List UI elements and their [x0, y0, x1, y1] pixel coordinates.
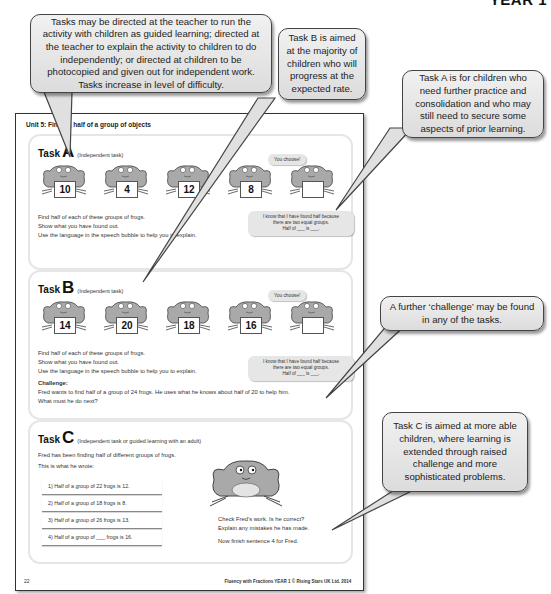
task-c-panel: TaskC(Independent task or guided learnin…: [28, 420, 353, 564]
instruction-line: Find half of each of these groups of fro…: [38, 214, 145, 220]
instruction-line: Use the language in the speech bubble to…: [38, 232, 197, 238]
challenge-line: Fred wants to find half of a group of 24…: [38, 389, 289, 395]
frog-card-icon: 12: [164, 163, 212, 201]
challenge-label: Challenge:: [38, 380, 68, 386]
task-b-panel: TaskB(Independent task) You choose! 14 2…: [28, 270, 353, 420]
frog-card-icon: 20: [102, 299, 150, 337]
frog-card-icon: 10: [40, 163, 88, 201]
fred-sentence: 1) Half of a group of 22 frogs is 12.: [42, 479, 162, 495]
challenge-line: What must he do next?: [38, 398, 98, 404]
page-number: 22: [24, 578, 30, 584]
callout-task-c: Task C is aimed at more able children, w…: [382, 412, 528, 492]
callout-task-b: Task B is aimed at the majority of child…: [278, 28, 366, 100]
instruction-line: Find half of each of these groups of fro…: [38, 350, 145, 356]
callout-tasks-directed: Tasks may be directed at the teacher to …: [30, 14, 272, 93]
fred-sentence: 4) Half of a group of ___ frogs is 16.: [42, 530, 162, 546]
task-b-heading: TaskB(Independent task): [38, 278, 123, 298]
fred-sentence: 3) Half of a group of 26 frogs is 13.: [42, 513, 162, 529]
frog-row: 14 20 18 16: [40, 299, 336, 337]
fred-sentences-list: 1) Half of a group of 22 frogs is 12. 2)…: [42, 479, 162, 547]
unit-title: Unit 5: Finding half of a group of objec…: [26, 121, 151, 128]
instruction-line: Use the language in the speech bubble to…: [38, 368, 197, 374]
callout-task-a: Task A is for children who need further …: [402, 70, 544, 138]
task-a-subtitle: (Independent task): [77, 152, 123, 158]
fred-frog-icon: [208, 458, 284, 510]
speech-bubble: I know that I have found half because th…: [248, 356, 354, 381]
task-a-panel: TaskA(Independent task) You choose! 10 4…: [28, 134, 353, 270]
task-a-heading: TaskA(Independent task): [38, 142, 123, 162]
intro-line: This is what he wrote:: [38, 463, 94, 469]
check-line: Explain any mistakes he has made.: [218, 525, 309, 531]
frog-card-icon: 16: [226, 299, 274, 337]
frog-card-icon: [288, 299, 336, 337]
frog-card-icon: 18: [164, 299, 212, 337]
task-b-letter: B: [62, 278, 74, 297]
instruction-line: Show what you have found out.: [38, 359, 119, 365]
footer-copyright: Fluency with Fractions YEAR 1 © Rising S…: [224, 578, 351, 584]
check-line: Check Fred’s work. Is he correct?: [218, 516, 304, 522]
fred-sentence: 2) Half of a group of 18 frogs is 8.: [42, 496, 162, 512]
task-b-subtitle: (Independent task): [77, 288, 123, 294]
task-c-letter: C: [62, 428, 74, 447]
instruction-line: Show what you have found out.: [38, 223, 119, 229]
frog-card-icon: [288, 163, 336, 201]
frog-card-icon: 4: [102, 163, 150, 201]
year-label: YEAR 1: [490, 0, 547, 8]
speech-bubble: I know that I have found half because th…: [248, 211, 354, 236]
task-a-letter: A: [62, 142, 74, 161]
worksheet-page: Unit 5: Finding half of a group of objec…: [15, 113, 364, 591]
intro-line: Fred has been finding half of different …: [38, 452, 176, 458]
task-c-subtitle: (Independent task or guided learning wit…: [77, 438, 201, 444]
finish-line: Now finish sentence 4 for Fred.: [218, 538, 298, 544]
frog-row: 10 4 12 8: [40, 163, 336, 201]
callout-challenge: A further ‘challenge’ may be found in an…: [380, 296, 544, 331]
frog-card-icon: 8: [226, 163, 274, 201]
task-c-heading: TaskC(Independent task or guided learnin…: [38, 428, 201, 448]
frog-card-icon: 14: [40, 299, 88, 337]
